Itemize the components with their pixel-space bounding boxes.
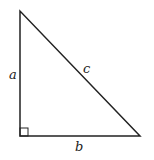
side-b-label: b: [75, 139, 83, 154]
hypotenuse-c-label: c: [83, 61, 91, 76]
triangle-shape: [20, 11, 140, 136]
right-angle-marker: [20, 128, 28, 136]
right-triangle-diagram: a c b: [0, 0, 154, 160]
side-a-label: a: [9, 67, 17, 82]
